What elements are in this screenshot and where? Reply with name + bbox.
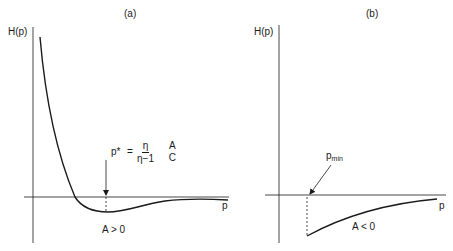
fraction-denominator: η−1 (137, 153, 154, 164)
panel-a-graphics (24, 27, 229, 243)
panel-b-pmin-label: pmin (326, 151, 343, 162)
fraction-numerator: η (142, 141, 150, 153)
panel-a-y-axis-label: H(p) (8, 27, 27, 37)
diagram-canvas (0, 0, 453, 251)
panel-a-title: (a) (124, 9, 136, 19)
panel-b-title: (b) (366, 9, 378, 19)
formula-equals: = (127, 147, 133, 157)
fraction-numerator: A (168, 141, 177, 152)
panel-b-graphics (265, 25, 446, 243)
panel-b-y-axis-label: H(p) (254, 27, 273, 37)
panel-a-x-axis-label: p (222, 201, 228, 211)
formula-symbol: p* (111, 147, 120, 157)
panel-b-arrow (310, 165, 331, 194)
fraction-denominator: C (169, 152, 176, 163)
formula-fraction-eta: η η−1 (137, 141, 154, 164)
panel-b-x-axis-label: p (439, 201, 445, 211)
panel-a-curve (40, 37, 228, 212)
panel-b-condition: A < 0 (352, 222, 375, 232)
formula-fraction-ac: A C (168, 141, 177, 163)
pmin-subscript: min (332, 155, 343, 162)
panel-a-condition: A > 0 (102, 225, 125, 235)
